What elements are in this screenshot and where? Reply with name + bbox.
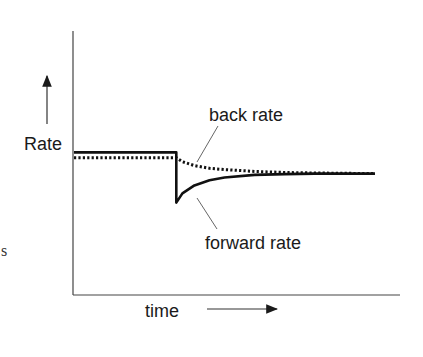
series-back-rate: [74, 158, 375, 174]
annotation-forward-rate: forward rate: [205, 233, 301, 253]
series-forward-rate: [74, 152, 375, 202]
x-axis-label: time: [145, 301, 179, 321]
annotation-back-rate-leader: [197, 126, 218, 162]
chart: Rate time back rate forward rate s: [0, 0, 423, 357]
stray-text: s: [1, 242, 7, 259]
annotation-forward-rate-leader: [197, 198, 217, 229]
y-axis-label: Rate: [24, 134, 62, 154]
annotation-back-rate: back rate: [209, 105, 283, 125]
